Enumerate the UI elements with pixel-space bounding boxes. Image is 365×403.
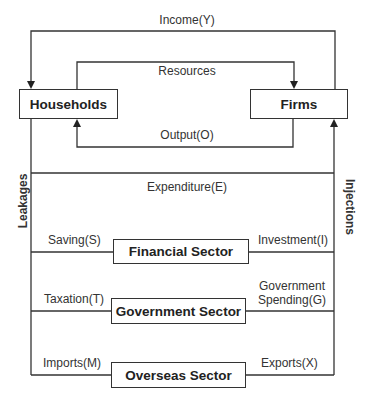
overseas-sector-label: Overseas Sector [125, 368, 232, 383]
imports-label: Imports(M) [43, 357, 101, 370]
exports-label: Exports(X) [261, 357, 318, 370]
firms-label: Firms [281, 97, 318, 112]
gov-spending-label-line1: Government [259, 280, 325, 293]
leakages-label: Leakages [16, 171, 30, 231]
income-arrow-icon [27, 81, 35, 89]
households-label: Households [30, 97, 107, 112]
investment-label: Investment(I) [258, 234, 328, 247]
output-arrow-icon [73, 119, 81, 127]
gov-spending-label-line2: Spending(G) [258, 294, 326, 307]
injections-arrow-icon [330, 119, 338, 127]
households-box: Households [19, 89, 118, 119]
resources-arrow-icon [290, 81, 298, 89]
financial-sector-box: Financial Sector [113, 239, 249, 264]
firms-box: Firms [250, 89, 348, 119]
injections-label: Injections [343, 172, 357, 242]
flow-lines [0, 0, 365, 403]
government-sector-box: Government Sector [111, 298, 246, 324]
taxation-label: Taxation(T) [44, 293, 104, 306]
overseas-sector-box: Overseas Sector [111, 362, 246, 388]
government-sector-label: Government Sector [116, 304, 241, 319]
expenditure-label: Expenditure(E) [147, 181, 227, 194]
income-label: Income(Y) [159, 14, 214, 27]
output-label: Output(O) [160, 129, 213, 142]
resources-label: Resources [158, 65, 215, 78]
financial-sector-label: Financial Sector [129, 244, 233, 259]
saving-label: Saving(S) [48, 234, 101, 247]
